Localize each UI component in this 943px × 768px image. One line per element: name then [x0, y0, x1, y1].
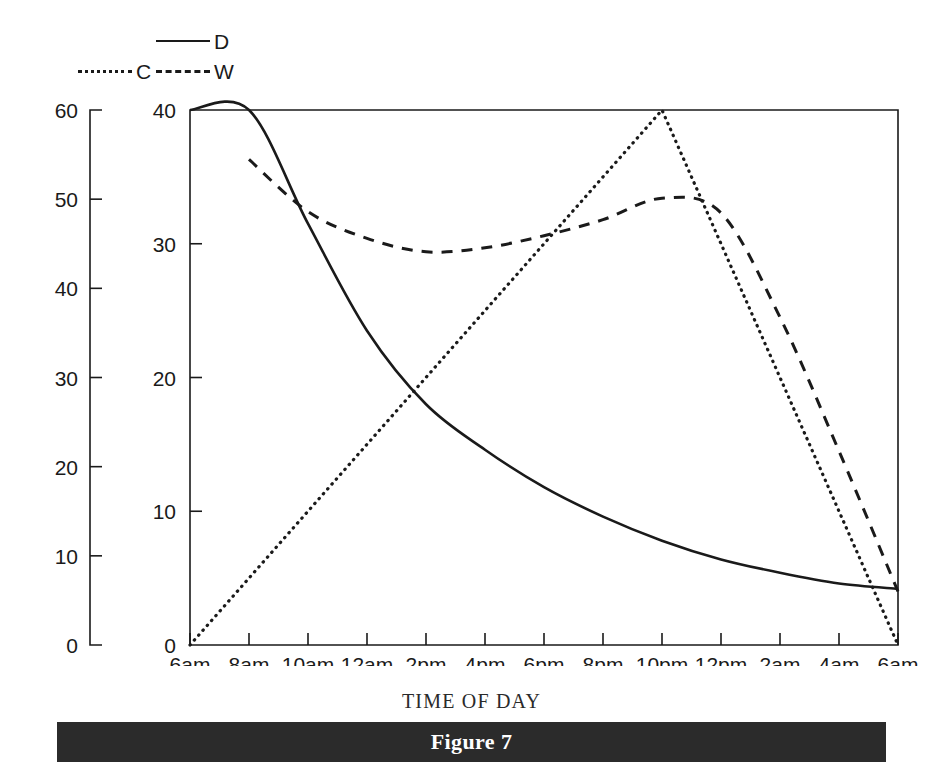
x-tick-label: 6pm	[524, 653, 565, 666]
legend-label-c: C	[136, 61, 151, 82]
data-series-group	[190, 102, 898, 645]
outer-y-tick-label: 10	[55, 545, 78, 568]
x-axis-title: TIME OF DAY	[0, 690, 943, 713]
legend-label-d: D	[214, 31, 229, 52]
dashed-line-icon	[156, 65, 210, 77]
outer-y-tick-label: 40	[55, 277, 78, 300]
series-line-w[interactable]	[249, 159, 898, 591]
solid-line-icon	[156, 35, 210, 47]
x-axis: 6am8am10am12am2pm4pm6pm8pm10pm12pm2am4am…	[170, 633, 919, 666]
chart-legend: D C W	[0, 0, 943, 96]
outer-y-tick-label: 0	[66, 634, 78, 657]
x-tick-label: 10pm	[636, 653, 689, 666]
figure-caption-text: Figure 7	[431, 729, 513, 755]
x-tick-label: 10am	[282, 653, 335, 666]
x-tick-label: 4am	[819, 653, 860, 666]
left-outer-axis: 0102030405060	[55, 99, 102, 657]
inner-y-tick-label: 30	[153, 233, 176, 256]
x-tick-label: 12am	[341, 653, 394, 666]
inner-y-tick-label: 40	[153, 99, 176, 122]
inner-y-tick-label: 10	[153, 500, 176, 523]
figure-caption-bar: Figure 7	[57, 722, 886, 762]
x-tick-label: 12pm	[695, 653, 748, 666]
dotted-line-icon	[78, 65, 132, 77]
legend-item-d[interactable]: D	[156, 30, 229, 52]
outer-y-tick-label: 20	[55, 456, 78, 479]
x-tick-label: 2am	[760, 653, 801, 666]
x-tick-label: 6am	[878, 653, 919, 666]
x-tick-label: 2pm	[406, 653, 447, 666]
x-tick-label: 8am	[229, 653, 270, 666]
chart-svg: 0102030405060 010203040 6am8am10am12am2p…	[0, 96, 943, 666]
series-line-c[interactable]	[190, 110, 898, 645]
legend-label-w: W	[214, 61, 234, 82]
outer-y-tick-label: 60	[55, 99, 78, 122]
plot-area: 0102030405060 010203040 6am8am10am12am2p…	[0, 96, 943, 666]
legend-item-w[interactable]: W	[156, 60, 234, 82]
outer-y-tick-label: 50	[55, 188, 78, 211]
legend-item-c[interactable]: C	[78, 60, 151, 82]
inner-y-tick-label: 20	[153, 367, 176, 390]
outer-y-tick-label: 30	[55, 367, 78, 390]
figure-7: D C W 0102030405060 010203040	[0, 0, 943, 768]
x-tick-label: 6am	[170, 653, 211, 666]
x-tick-label: 4pm	[465, 653, 506, 666]
x-tick-label: 8pm	[583, 653, 624, 666]
